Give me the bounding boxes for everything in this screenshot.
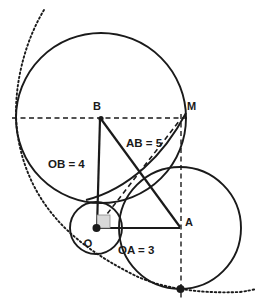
point-O-dot [93,224,101,232]
point-B-dot [98,116,103,121]
segment-AB [101,119,180,227]
geometry-canvas: B M A O OB = 4 AB = 5 OA = 3 [0,0,258,307]
label-point-M: M [187,100,196,112]
label-point-O: O [82,236,94,250]
geometry-figure: B M A O OB = 4 AB = 5 OA = 3 [0,0,258,307]
segment-OB [97,119,100,228]
label-segment-OA: OA = 3 [118,244,154,256]
point-tangent-dot [177,285,185,293]
label-segment-OB: OB = 4 [48,158,85,170]
label-point-A: A [185,216,193,228]
label-segment-AB: AB = 5 [126,137,163,149]
label-point-B: B [93,100,101,112]
